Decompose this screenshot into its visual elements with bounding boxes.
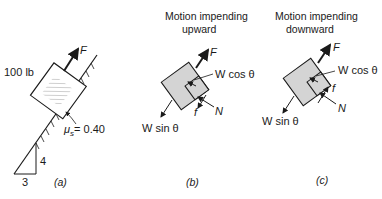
force-label-c: F	[333, 41, 341, 53]
force-label: F	[80, 44, 88, 56]
w-sin-arrow-c	[283, 96, 294, 113]
panel-c-title-line1: Motion impending	[275, 10, 358, 22]
force-label-b: F	[210, 46, 218, 58]
free-body-diagrams: 4 3 F 100 lb μs= 0.40 (a) Motion impendi…	[0, 0, 382, 199]
normal-label-c: N	[338, 102, 346, 114]
block	[30, 63, 86, 119]
panel-c: Motion impending downward F W cos θ N f …	[262, 10, 378, 186]
caption-b: (b)	[186, 176, 199, 188]
panel-c-title-line2: downward	[286, 23, 334, 35]
normal-label-b: N	[215, 105, 223, 117]
normal-arrow-b	[198, 97, 214, 107]
w-sin-arrow-b	[161, 100, 172, 117]
friction-coefficient-label: μs= 0.40	[63, 123, 105, 138]
force-arrow-b	[196, 50, 208, 68]
w-sin-label-b: W sin θ	[142, 122, 179, 134]
w-sin-label-c: W sin θ	[262, 115, 299, 127]
force-arrow-c	[318, 45, 330, 63]
block-c	[283, 58, 330, 105]
friction-label-b: f	[194, 106, 198, 118]
w-cos-label-c: W cos θ	[338, 64, 378, 76]
panel-b-title-line2: upward	[182, 23, 217, 35]
panel-b-title-line1: Motion impending	[165, 10, 248, 22]
panel-b: Motion impending upward F W cos θ N f W …	[142, 10, 255, 188]
panel-a: 4 3 F 100 lb μs= 0.40 (a)	[4, 44, 105, 188]
friction-label-c: f	[332, 82, 336, 94]
caption-c: (c)	[316, 174, 328, 186]
normal-arrow-c	[320, 93, 336, 104]
force-arrow	[64, 49, 78, 71]
slope-rise-label: 4	[40, 155, 46, 167]
weight-label: 100 lb	[4, 66, 34, 78]
caption-a: (a)	[54, 176, 67, 188]
w-cos-label-b: W cos θ	[215, 68, 255, 80]
slope-run-label: 3	[22, 176, 28, 188]
